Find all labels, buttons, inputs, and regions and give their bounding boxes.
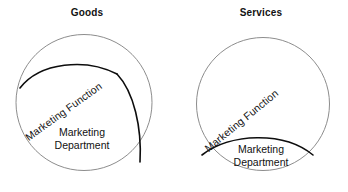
goods-circle-graphic: Marketing Function (0, 0, 174, 192)
services-department-label: Marketing Department (202, 143, 320, 168)
goods-department-label: Marketing Department (27, 126, 137, 151)
panel-goods: Goods Marketing Function Marketing Depar… (0, 0, 174, 192)
services-department-label-line1: Marketing (202, 143, 320, 156)
goods-department-label-line2: Department (27, 139, 137, 152)
panel-services: Services Marketing Function Marketing De… (174, 0, 348, 192)
diagram-root: Goods Marketing Function Marketing Depar… (0, 0, 348, 192)
services-department-label-line2: Department (202, 156, 320, 169)
goods-function-arc-upper (20, 65, 117, 88)
goods-department-label-line1: Marketing (27, 126, 137, 139)
